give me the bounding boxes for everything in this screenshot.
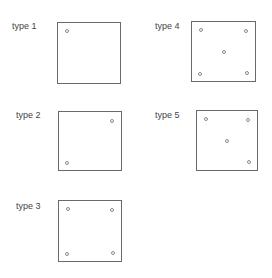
point-top-left-icon — [199, 28, 203, 32]
point-top-right-icon — [244, 29, 248, 33]
type-5-label: type 5 — [155, 110, 180, 120]
point-bottom-left-icon — [65, 252, 69, 256]
point-center-icon — [222, 50, 226, 54]
point-bottom-left-icon — [198, 72, 202, 76]
point-top-left-icon — [65, 29, 69, 33]
type-2-box — [58, 111, 122, 171]
type-4-label: type 4 — [155, 21, 180, 31]
point-bottom-right-icon — [111, 251, 115, 255]
type-3-box — [58, 200, 122, 262]
point-center-icon — [225, 139, 229, 143]
point-bottom-right-icon — [245, 71, 249, 75]
type-3-label: type 3 — [16, 201, 41, 211]
type-2-label: type 2 — [16, 110, 41, 120]
type-4-box — [191, 21, 256, 82]
point-bottom-right-icon — [247, 160, 251, 164]
point-bottom-left-icon — [65, 161, 69, 165]
type-1-label: type 1 — [12, 21, 37, 31]
point-top-right-icon — [110, 119, 114, 123]
point-top-left-icon — [66, 207, 70, 211]
type-5-box — [196, 110, 258, 171]
point-top-right-icon — [246, 118, 250, 122]
type-1-box — [57, 22, 121, 84]
point-top-right-icon — [110, 208, 114, 212]
point-top-left-icon — [204, 117, 208, 121]
